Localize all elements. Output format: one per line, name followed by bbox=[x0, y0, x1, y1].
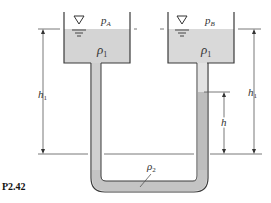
manometer-diagram: pA ρ1 pB ρ1 h1 h1 h h ρ2 P2.42 bbox=[0, 0, 271, 203]
pressure-label-a: pA bbox=[100, 14, 112, 28]
h1-right-label: h1 bbox=[248, 86, 258, 100]
fluid-label-manometer: ρ2 bbox=[146, 160, 156, 174]
pressure-label-b: pB bbox=[204, 14, 216, 28]
left-leg-fluid bbox=[92, 63, 101, 175]
h-label-text: h bbox=[221, 116, 227, 128]
figure-caption: P2.42 bbox=[2, 181, 26, 192]
right-leg-fluid1 bbox=[198, 63, 207, 92]
right-leg-fluid2 bbox=[198, 92, 207, 175]
h1-left-label: h1 bbox=[38, 88, 48, 102]
tube-outer-wall bbox=[91, 63, 208, 192]
u-tube bbox=[91, 63, 208, 192]
